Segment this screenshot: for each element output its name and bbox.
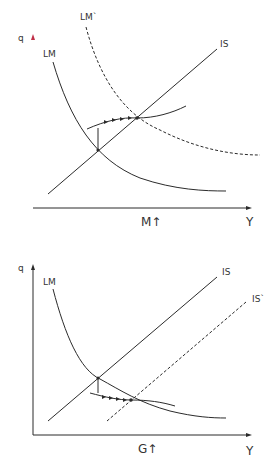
- shock-label: G↑: [138, 442, 157, 456]
- equilibrium-new-point: [129, 398, 133, 402]
- adjustment-arrows-icon: [104, 116, 132, 124]
- is-label: IS: [222, 267, 231, 277]
- y-axis-label: q: [18, 263, 24, 273]
- lm-shifted-curve: [86, 27, 260, 155]
- equilibrium-new-point: [135, 116, 139, 120]
- is-label: IS: [220, 39, 229, 49]
- y-axis-arrow-icon: [31, 34, 35, 40]
- lm-label: LM: [43, 49, 56, 59]
- is-lm-diagram-top: q LM LM` IS M↑ Y: [0, 0, 276, 235]
- equilibrium-initial-point: [96, 376, 99, 379]
- y-axis: [31, 264, 35, 435]
- lm-curve: [53, 289, 226, 418]
- lm-shifted-label: LM`: [80, 12, 97, 22]
- y-axis-label: q: [18, 33, 24, 43]
- x-axis-label: Y: [245, 215, 254, 229]
- diagram-monetary-expansion: q LM LM` IS M↑ Y: [0, 0, 276, 235]
- is-shifted-label: IS`: [252, 294, 265, 304]
- y-axis: [31, 34, 35, 208]
- x-axis: [33, 433, 252, 437]
- is-line: [48, 49, 217, 194]
- x-axis: [33, 206, 252, 210]
- is-shifted-line: [107, 302, 246, 421]
- y-axis-arrow-icon: [31, 264, 35, 270]
- lm-curve: [53, 62, 226, 191]
- x-axis-label: Y: [245, 444, 254, 458]
- equilibrium-initial-point: [96, 148, 99, 151]
- diagram-fiscal-expansion: q LM IS IS` G↑ Y: [0, 235, 276, 470]
- is-lm-diagram-bottom: q LM IS IS` G↑ Y: [0, 235, 276, 470]
- shock-label: M↑: [141, 215, 161, 229]
- x-axis-arrow-icon: [246, 206, 252, 210]
- x-axis-arrow-icon: [246, 433, 252, 437]
- lm-label: LM: [43, 277, 56, 287]
